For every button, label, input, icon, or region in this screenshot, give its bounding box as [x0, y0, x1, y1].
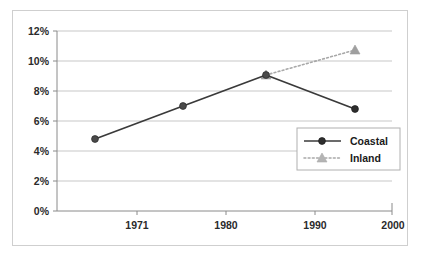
- x-tick-label-1980: 1980: [214, 219, 238, 231]
- x-tick-label-1990: 1990: [303, 219, 327, 231]
- x-axis-tick-labels: 1971 1980 1990 2000: [125, 219, 405, 231]
- chart-legend[interactable]: Coastal Inland: [297, 128, 400, 170]
- chart-container: 12% 10% 8% 6% 4% 2% 0% 1971 1980 1990 20…: [0, 0, 421, 257]
- y-tick-label-6: 6%: [34, 115, 50, 127]
- y-tick-label-12: 12%: [28, 25, 50, 37]
- legend-marker-circle-icon: [319, 138, 326, 145]
- y-tick-label-8: 8%: [34, 85, 50, 97]
- series-inland-marker-1994: [350, 45, 360, 54]
- y-tick-marks: [53, 31, 57, 211]
- legend-label-inland: Inland: [350, 152, 381, 164]
- y-axis-tick-labels: 12% 10% 8% 6% 4% 2% 0%: [28, 25, 50, 217]
- y-tick-label-0: 0%: [34, 205, 50, 217]
- x-tick-marks: [137, 211, 392, 215]
- y-tick-label-2: 2%: [34, 175, 50, 187]
- series-inland: [261, 45, 360, 79]
- x-tick-label-2000: 2000: [381, 219, 405, 231]
- y-tick-label-10: 10%: [28, 55, 50, 67]
- series-coastal-marker-1968: [92, 136, 99, 143]
- y-tick-label-4: 4%: [34, 145, 50, 157]
- series-coastal-marker-1984: [263, 72, 270, 79]
- legend-label-coastal: Coastal: [350, 135, 388, 147]
- series-inland-line: [266, 50, 355, 75]
- x-tick-label-1971: 1971: [125, 219, 149, 231]
- line-chart-plot: 12% 10% 8% 6% 4% 2% 0% 1971 1980 1990 20…: [0, 0, 421, 257]
- series-coastal-marker-1974: [180, 103, 187, 110]
- series-coastal-marker-1994: [352, 106, 359, 113]
